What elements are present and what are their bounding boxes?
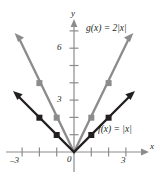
absolute-value-graph-figure: g(x) = 2|x| f(x) = |x| y x –3 0 3 3 6 xyxy=(0,0,162,179)
x-axis-label: x xyxy=(150,142,154,151)
y-tick-label-6: 6 xyxy=(57,43,62,52)
origin-label: 0 xyxy=(67,155,72,164)
y-axis-label: y xyxy=(71,9,75,18)
y-tick-label-3: 3 xyxy=(57,95,62,104)
graph-canvas xyxy=(0,0,162,179)
y-axis-arrow-icon xyxy=(71,19,78,27)
f-function-label: f(x) = |x| xyxy=(98,125,132,135)
x-tick-label-3: 3 xyxy=(121,156,126,165)
x-tick-label-minus3: –3 xyxy=(10,156,19,165)
g-function-label: g(x) = 2|x| xyxy=(86,24,127,34)
g-left-arrow-icon xyxy=(15,33,24,42)
g-right-arrow-icon xyxy=(124,33,133,42)
x-axis-arrow-icon xyxy=(141,149,149,156)
